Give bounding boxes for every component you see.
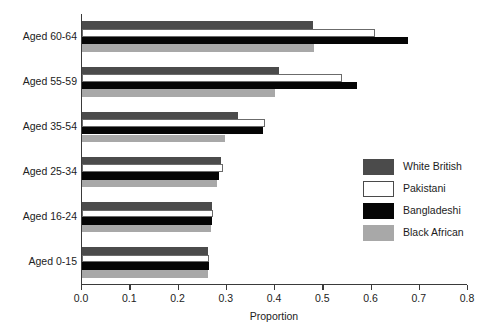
bar-row	[82, 180, 217, 188]
bar-row	[82, 67, 279, 75]
x-axis-tick	[274, 285, 275, 290]
legend-label: Black African	[403, 226, 464, 238]
x-axis-tick-label: 0.4	[254, 292, 294, 304]
x-axis-title: Proportion	[81, 310, 467, 322]
chart-legend: White BritishPakistaniBangladeshiBlack A…	[363, 158, 487, 246]
x-axis-tick-label: 0.0	[61, 292, 101, 304]
bar[interactable]	[82, 37, 408, 45]
y-axis-label: Aged 16-24	[3, 210, 77, 222]
bar-group	[82, 21, 467, 51]
y-axis-label: Aged 55-59	[3, 75, 77, 87]
legend-item[interactable]: Black African	[363, 224, 487, 246]
x-axis-tick	[81, 285, 82, 290]
x-axis-tick	[467, 285, 468, 290]
x-axis-tick	[129, 285, 130, 290]
bar-row	[82, 112, 238, 120]
bar-group	[82, 112, 467, 142]
bar-row	[82, 135, 225, 143]
bar-row	[82, 247, 208, 255]
bar[interactable]	[82, 89, 275, 97]
legend-label: Bangladeshi	[403, 204, 461, 216]
bar[interactable]	[82, 157, 221, 165]
y-axis-label: Aged 60-64	[3, 30, 77, 42]
bar-row	[82, 225, 211, 233]
bar[interactable]	[82, 217, 212, 225]
bar-row	[82, 44, 314, 52]
bar-group	[82, 247, 467, 277]
y-axis-label: Aged 35-54	[3, 120, 77, 132]
y-axis-label: Aged 25-34	[3, 165, 77, 177]
bar[interactable]	[82, 135, 225, 143]
legend-swatch	[363, 181, 394, 197]
bar-row	[82, 164, 223, 172]
bar-row	[82, 21, 313, 29]
bar[interactable]	[82, 74, 342, 82]
x-axis-tick-label: 0.8	[447, 292, 487, 304]
bar[interactable]	[82, 29, 375, 37]
bar-row	[82, 82, 357, 90]
legend-item[interactable]: White British	[363, 158, 487, 180]
x-axis-tick	[322, 285, 323, 290]
bar[interactable]	[82, 127, 263, 135]
bar[interactable]	[82, 119, 265, 127]
legend-label: White British	[403, 160, 462, 172]
x-axis-tick	[371, 285, 372, 290]
bar[interactable]	[82, 82, 357, 90]
y-axis-category-labels: Aged 0-15Aged 16-24Aged 25-34Aged 35-54A…	[0, 14, 77, 285]
x-axis-tick	[226, 285, 227, 290]
bar-row	[82, 262, 209, 270]
bar-row	[82, 119, 265, 127]
bar[interactable]	[82, 270, 208, 278]
bar[interactable]	[82, 21, 313, 29]
x-axis-tick	[178, 285, 179, 290]
bar-row	[82, 37, 408, 45]
bar[interactable]	[82, 164, 223, 172]
x-axis-tick-label: 0.1	[109, 292, 149, 304]
bar[interactable]	[82, 262, 209, 270]
bar-chart: Aged 0-15Aged 16-24Aged 25-34Aged 35-54A…	[0, 0, 490, 336]
bar[interactable]	[82, 67, 279, 75]
bar[interactable]	[82, 202, 212, 210]
bar[interactable]	[82, 172, 219, 180]
x-axis-tick	[419, 285, 420, 290]
bar[interactable]	[82, 255, 209, 263]
bar[interactable]	[82, 225, 211, 233]
x-axis-tick-label: 0.7	[399, 292, 439, 304]
legend-item[interactable]: Bangladeshi	[363, 202, 487, 224]
bar-row	[82, 127, 263, 135]
legend-item[interactable]: Pakistani	[363, 180, 487, 202]
x-axis-tick-label: 0.6	[351, 292, 391, 304]
bar-row	[82, 157, 221, 165]
legend-label: Pakistani	[403, 182, 446, 194]
bar-row	[82, 89, 275, 97]
x-axis-tick-label: 0.3	[206, 292, 246, 304]
bar[interactable]	[82, 247, 208, 255]
x-axis-tick-label: 0.5	[302, 292, 342, 304]
legend-swatch	[363, 203, 394, 219]
bar[interactable]	[82, 180, 217, 188]
bar-row	[82, 255, 209, 263]
bar-row	[82, 217, 212, 225]
bar-row	[82, 270, 208, 278]
bar[interactable]	[82, 112, 238, 120]
bar[interactable]	[82, 44, 314, 52]
legend-swatch	[363, 159, 394, 175]
bar-row	[82, 172, 219, 180]
y-axis-label: Aged 0-15	[3, 255, 77, 267]
x-axis-tick-label: 0.2	[158, 292, 198, 304]
bar[interactable]	[82, 210, 213, 218]
legend-swatch	[363, 225, 394, 241]
bar-group	[82, 67, 467, 97]
bar-row	[82, 74, 342, 82]
bar-row	[82, 210, 213, 218]
bar-row	[82, 29, 375, 37]
bar-row	[82, 202, 212, 210]
